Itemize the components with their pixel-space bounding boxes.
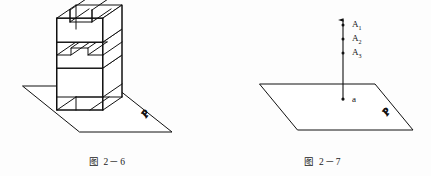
label-a3-sub: 3 <box>359 53 362 59</box>
figure-page: P 图 2－6 <box>0 0 431 176</box>
svg-text:A2: A2 <box>352 33 362 45</box>
point-a2-dot <box>342 38 345 41</box>
point-a-dot <box>341 97 344 100</box>
figure-2-6-drawing: P <box>0 0 215 150</box>
figure-2-6-caption: 图 2－6 <box>0 154 215 168</box>
label-a-lower: a <box>352 94 356 104</box>
figure-2-6: P 图 2－6 <box>0 0 215 176</box>
solid-top-block <box>57 0 122 42</box>
figure-2-7-caption: 图 2－7 <box>215 154 431 168</box>
svg-text:A1: A1 <box>352 19 362 31</box>
svg-text:A3: A3 <box>352 47 362 59</box>
point-a1-dot <box>342 24 345 27</box>
plane-outline <box>260 84 413 130</box>
figure-2-7-drawing: A1 A2 A3 a P <box>215 0 431 150</box>
label-a1-sub: 1 <box>359 25 362 31</box>
figure-2-7: A1 A2 A3 a P 图 2－7 <box>215 0 431 176</box>
point-a3-dot <box>342 52 345 55</box>
label-a2-sub: 2 <box>359 39 362 45</box>
